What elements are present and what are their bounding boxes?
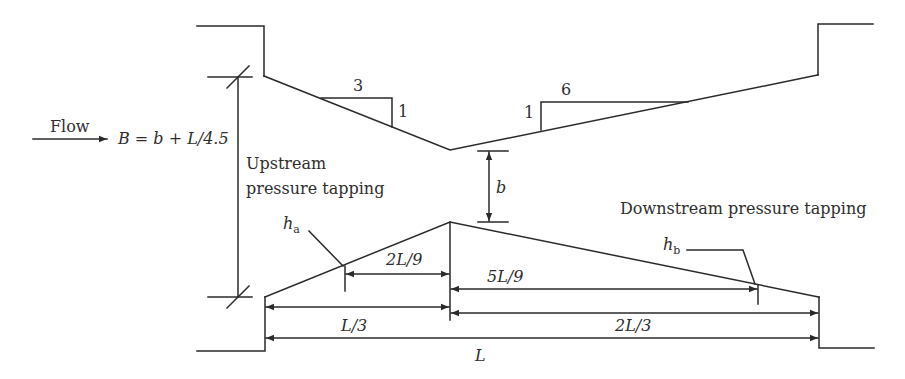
dimension-L3: L/3 [266, 307, 449, 335]
upstream-tapping-label: Upstream [246, 154, 326, 173]
downstream-tapping-label: Downstream pressure tapping [620, 199, 866, 218]
dimension-2L9: 2L/9 [346, 250, 449, 274]
slope-run-label: 3 [353, 76, 363, 95]
top-right-wall [818, 24, 873, 75]
flume-diagram: 3 1 6 1 Flow B = b + L/4.5 Upstream pres… [0, 0, 905, 379]
flow-arrow: Flow [33, 117, 107, 139]
dimension-label-2L9: 2L/9 [385, 250, 422, 269]
slope-run-label: 6 [561, 80, 571, 99]
bottom-right-wall [819, 297, 874, 348]
ha-tapping-marker: ha [283, 214, 345, 291]
dimension-label-L3: L/3 [340, 316, 367, 335]
dimension-2L3: 2L/3 [451, 313, 818, 335]
flow-label: Flow [50, 117, 90, 136]
dimension-label-L: L [474, 346, 486, 365]
width-formula: B = b + L/4.5 [117, 129, 229, 148]
dimension-label-5L9: 5L/9 [487, 267, 523, 286]
bottom-wall-profile [197, 222, 874, 351]
top-wall-profile [197, 24, 873, 150]
dimension-label-2L3: 2L/3 [614, 316, 651, 335]
slope-triangle-downstream: 6 1 [524, 80, 688, 130]
slope-rise-label: 1 [398, 102, 408, 121]
top-left-wall [197, 26, 264, 76]
dimension-L: L [266, 338, 818, 365]
throat-width-label: b [496, 178, 506, 197]
dimension-5L9: 5L/9 [451, 267, 757, 289]
svg-text:ha: ha [283, 214, 300, 236]
hb-tapping-marker: hb [663, 235, 758, 304]
bottom-contraction-slope [265, 222, 819, 297]
slope-rise-label: 1 [524, 103, 534, 122]
bottom-left-wall [197, 297, 265, 351]
slope-triangle-upstream: 3 1 [321, 76, 408, 127]
throat-width-dimension: b [478, 151, 508, 222]
svg-text:hb: hb [663, 235, 680, 257]
upstream-tapping-label-2: pressure tapping [246, 179, 384, 198]
